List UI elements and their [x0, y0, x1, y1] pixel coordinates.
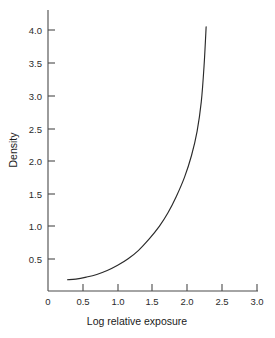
x-tick-label-2.5: 2.5	[215, 296, 228, 307]
y-tick-label-3.5: 3.5	[29, 58, 42, 69]
y-tick-label-2.0: 2.0	[29, 156, 42, 167]
x-tick-label-2.0: 2.0	[180, 296, 193, 307]
chart-figure: 0.5 1.0 1.5 2.0 2.5 3.0 3.5 4.0 0 0.5 1.…	[0, 0, 275, 338]
y-tick-label-0.5: 0.5	[29, 254, 42, 265]
characteristic-curve-chart: 0.5 1.0 1.5 2.0 2.5 3.0 3.5 4.0 0 0.5 1.…	[0, 0, 275, 338]
density-curve	[68, 27, 207, 280]
x-axis-tick-labels: 0 0.5 1.0 1.5 2.0 2.5 3.0	[45, 296, 263, 307]
y-tick-label-3.0: 3.0	[29, 91, 42, 102]
y-axis-title: Density	[7, 132, 19, 168]
x-axis-ticks	[83, 284, 257, 291]
y-axis-tick-labels: 0.5 1.0 1.5 2.0 2.5 3.0 3.5 4.0	[29, 25, 42, 265]
x-tick-label-1.5: 1.5	[145, 296, 158, 307]
x-tick-label-0: 0	[45, 296, 50, 307]
y-tick-label-1.0: 1.0	[29, 221, 42, 232]
y-tick-label-1.5: 1.5	[29, 189, 42, 200]
x-axis-title: Log relative exposure	[87, 315, 188, 327]
y-tick-label-4.0: 4.0	[29, 25, 42, 36]
x-tick-label-0.5: 0.5	[76, 296, 89, 307]
x-tick-label-1.0: 1.0	[111, 296, 124, 307]
y-tick-label-2.5: 2.5	[29, 124, 42, 135]
x-tick-label-3.0: 3.0	[250, 296, 263, 307]
y-axis-ticks	[48, 30, 55, 259]
